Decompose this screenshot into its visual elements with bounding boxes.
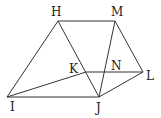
segment-jl xyxy=(99,72,143,97)
label-i: I xyxy=(10,101,15,113)
diagram-lines xyxy=(0,0,161,118)
label-m: M xyxy=(111,6,123,18)
segment-hj xyxy=(58,21,99,97)
label-n: N xyxy=(111,60,122,72)
label-h: H xyxy=(51,6,61,18)
geometry-diagram: H M K N L I J xyxy=(0,0,161,118)
label-k: K xyxy=(69,63,78,75)
label-l: L xyxy=(146,70,154,82)
segment-hi xyxy=(7,21,58,97)
label-j: J xyxy=(96,102,101,114)
